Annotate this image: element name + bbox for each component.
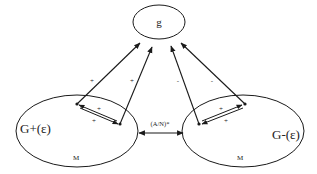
middle-edge-label: (A/N)* <box>151 120 170 128</box>
label-right-inner: - <box>177 77 180 85</box>
label-left-pair-top: + <box>97 105 101 113</box>
diagram: g G+(ε) M G-(ε) M (A/N)* <box>0 0 317 174</box>
edge-left-inner <box>120 47 152 124</box>
left-node: G+(ε) M <box>16 95 138 167</box>
label-left-outer: + <box>90 77 94 85</box>
edge-right-outer <box>181 43 245 104</box>
right-node-label: G-(ε) <box>272 127 300 142</box>
right-node: G-(ε) M <box>182 95 304 167</box>
label-left-inner: + <box>130 77 134 85</box>
right-node-sublabel: M <box>237 154 244 162</box>
label-left-pair-bottom: + <box>92 117 96 125</box>
label-right-pair-bottom: + <box>224 117 228 125</box>
edge-left-outer <box>77 43 140 104</box>
top-node-label: g <box>156 16 162 28</box>
left-node-label: G+(ε) <box>20 121 51 136</box>
edge-right-inner <box>171 46 199 124</box>
left-node-sublabel: M <box>73 154 80 162</box>
middle-edge: (A/N)* <box>139 120 183 133</box>
top-node: g <box>133 5 185 39</box>
label-right-outer: - <box>211 77 214 85</box>
label-right-pair-top: + <box>219 105 223 113</box>
